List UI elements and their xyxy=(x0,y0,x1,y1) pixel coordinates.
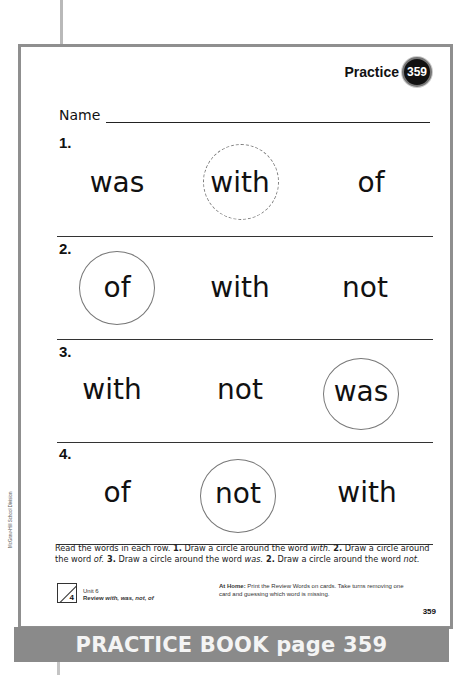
name-row: Name xyxy=(59,107,430,123)
word-option-circled[interactable]: of xyxy=(104,274,131,302)
row-divider xyxy=(57,339,433,340)
step-text: Draw a circle around the word xyxy=(116,554,245,564)
unit-info: Unit 6 Review with, was, not, of xyxy=(83,588,154,602)
step-number: 2. xyxy=(331,543,343,553)
name-label: Name xyxy=(59,107,100,123)
review-words: with, was, not, of xyxy=(105,595,153,601)
step-text: Draw a circle around the word xyxy=(182,543,311,553)
exercise-row-4: 4. of not with xyxy=(51,445,431,545)
banner-text: PRACTICE BOOK page 359 xyxy=(76,633,388,657)
word-option-circled[interactable]: not xyxy=(215,480,261,508)
target-word: with. xyxy=(311,543,331,553)
word-option[interactable]: of xyxy=(104,479,131,507)
unit-icon-number: 4 xyxy=(70,593,74,602)
word-option-circled[interactable]: with xyxy=(210,169,269,197)
word-option-circled[interactable]: was xyxy=(334,378,389,406)
row-divider xyxy=(57,236,433,237)
word-option[interactable]: was xyxy=(90,169,145,197)
at-home-label: At Home: xyxy=(219,583,246,589)
row-number: 2. xyxy=(59,240,72,257)
target-word: of. xyxy=(94,554,104,564)
target-word: was. xyxy=(245,554,264,564)
worksheet-page: Practice 359 Name 1. was with of 2. of w… xyxy=(18,44,453,629)
binding-line-bottom xyxy=(57,662,60,675)
step-number: 3. xyxy=(104,554,116,564)
exercise-row-1: 1. was with of xyxy=(51,134,431,237)
step-number: 2. xyxy=(263,554,275,564)
practice-book-banner: PRACTICE BOOK page 359 xyxy=(14,627,449,662)
page-number: 359 xyxy=(423,607,436,616)
word-option[interactable]: of xyxy=(358,169,385,197)
row-number: 4. xyxy=(59,445,72,462)
practice-label: Practice xyxy=(345,64,399,80)
binding-line-top xyxy=(60,0,63,46)
publisher-credit: McGraw-Hill School Division xyxy=(8,491,13,548)
instructions-intro: Read the words in each row. xyxy=(55,543,173,553)
target-word: not. xyxy=(404,554,420,564)
name-field[interactable] xyxy=(106,109,430,123)
word-option[interactable]: with xyxy=(337,479,396,507)
practice-header: Practice 359 xyxy=(345,57,432,87)
step-number: 1. xyxy=(173,543,182,553)
exercise-row-2: 2. of with not xyxy=(51,240,431,340)
word-option[interactable]: not xyxy=(217,376,263,404)
row-number: 1. xyxy=(59,134,72,151)
diagonal-line xyxy=(59,583,77,603)
review-line: Review with, was, not, of xyxy=(83,595,154,602)
instructions-text: Read the words in each row. 1. Draw a ci… xyxy=(55,543,435,565)
row-divider xyxy=(57,442,433,443)
step-text: Draw a circle around the word xyxy=(275,554,404,564)
practice-number-badge: 359 xyxy=(402,57,432,87)
exercise-row-3: 3. with not was xyxy=(51,343,431,443)
word-option[interactable]: with xyxy=(82,376,141,404)
unit-label: Unit 6 xyxy=(83,588,154,595)
at-home-note: At Home: Print the Review Words on cards… xyxy=(219,583,409,598)
review-prefix: Review xyxy=(83,595,105,601)
unit-icon: 4 xyxy=(57,583,77,603)
row-number: 3. xyxy=(59,343,72,360)
word-option[interactable]: not xyxy=(342,274,388,302)
word-option[interactable]: with xyxy=(210,274,269,302)
at-home-text: Print the Review Words on cards. Take tu… xyxy=(219,583,404,597)
